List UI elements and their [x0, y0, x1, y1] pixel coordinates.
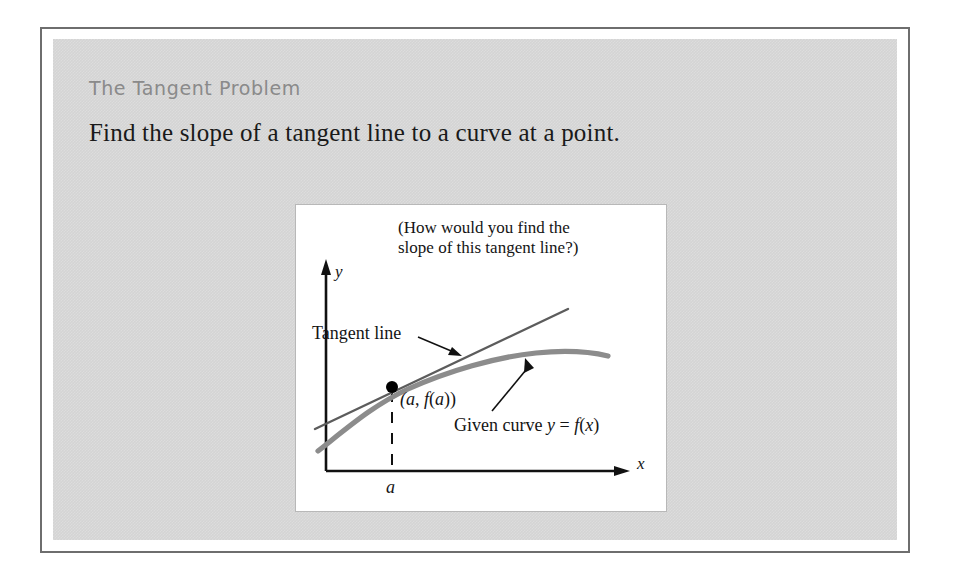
- question-line-2: slope of this tangent line?): [398, 238, 578, 257]
- figure-container: (How would you find the slope of this ta…: [295, 204, 667, 512]
- tangent-leader-arrow: [418, 337, 462, 356]
- x-axis-label: x: [636, 454, 645, 473]
- given-curve: [318, 352, 608, 451]
- outer-frame: The Tangent Problem Find the slope of a …: [40, 27, 910, 553]
- page-title: The Tangent Problem: [89, 77, 301, 99]
- given-curve-label: Given curve y = f(x): [454, 415, 599, 436]
- y-axis-label: y: [333, 262, 343, 281]
- point-label: (a, f(a)): [400, 389, 456, 410]
- curve-leader-arrow: [492, 358, 534, 411]
- x-tick-label-a: a: [386, 477, 395, 497]
- question-line-1: (How would you find the: [398, 218, 570, 237]
- tangent-problem-diagram: (How would you find the slope of this ta…: [296, 205, 666, 511]
- tangent-line-label: Tangent line: [312, 323, 401, 343]
- page-subtitle: Find the slope of a tangent line to a cu…: [89, 119, 620, 147]
- content-panel: The Tangent Problem Find the slope of a …: [53, 39, 897, 540]
- point-of-tangency-dot: [386, 381, 398, 393]
- x-axis: [326, 466, 630, 476]
